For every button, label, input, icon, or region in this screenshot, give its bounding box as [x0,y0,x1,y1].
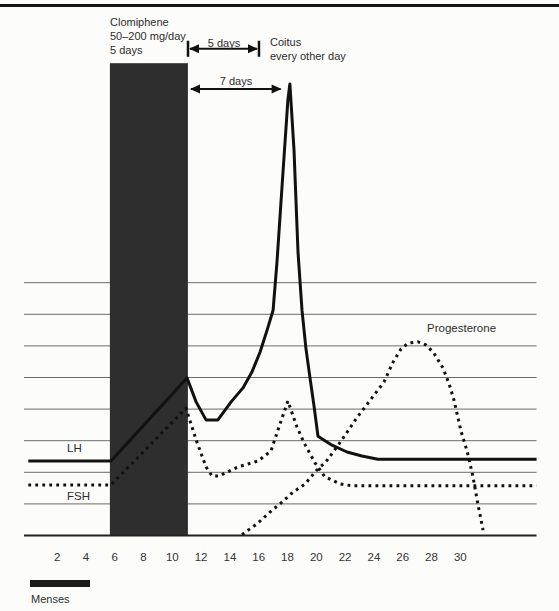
fsh-series-label: FSH [67,489,90,503]
x-axis-tick-label: 30 [454,551,467,563]
clomiphene-annotation: Clomiphene 50–200 mg/day 5 days [110,15,186,57]
x-axis-tick-label: 24 [368,551,381,563]
menses-legend-swatch [30,580,90,587]
x-axis-tick-label: 18 [281,551,294,563]
x-axis-tick-label: 14 [224,551,237,563]
x-axis-tick-label: 10 [166,551,179,563]
series-lh-line [28,84,536,461]
hormone-cycle-chart: 24681012141618202224262830 [0,0,559,611]
x-axis-tick-label: 12 [195,551,208,563]
clomiphene-annotation-line3: 5 days [110,43,186,57]
x-axis-tick-label: 6 [111,551,117,563]
x-axis-tick-label: 28 [425,551,438,563]
x-axis-tick-label: 22 [339,551,352,563]
x-axis-tick-label: 26 [396,551,409,563]
clomiphene-annotation-line2: 50–200 mg/day [110,29,186,43]
x-axis-tick-label: 8 [140,551,146,563]
coitus-annotation-line1: Coitus [270,35,346,49]
five-days-arrow-label: 5 days [189,36,259,50]
clomiphene-treatment-bar [110,63,188,535]
menses-legend-label: Menses [31,592,70,606]
x-axis-tick-label: 20 [310,551,323,563]
series-progesterone-line [242,342,483,535]
clomiphene-annotation-line1: Clomiphene [110,15,186,29]
x-axis-tick-label: 16 [252,551,265,563]
x-axis-tick-label: 4 [83,551,90,563]
seven-days-arrow-label: 7 days [196,74,276,88]
x-axis-tick-label: 2 [54,551,60,563]
progesterone-series-label: Progesterone [427,321,496,335]
coitus-annotation-line2: every other day [270,49,346,63]
series-fsh-line [28,401,536,486]
coitus-annotation: Coitus every other day [270,35,346,63]
figure-page: 24681012141618202224262830 Clomiphene 50… [0,0,559,611]
lh-series-label: LH [67,441,82,455]
